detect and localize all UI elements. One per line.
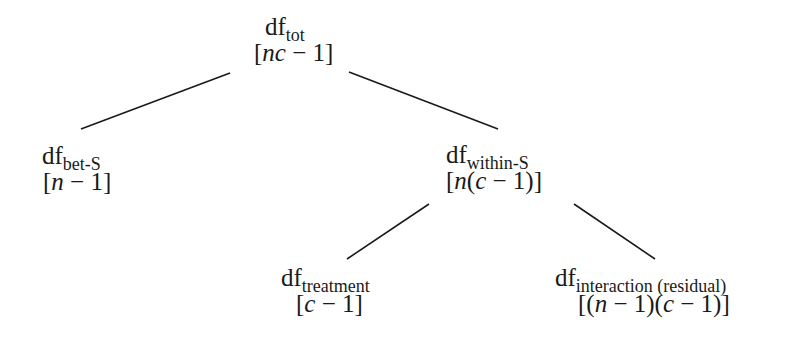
df-base: df <box>446 141 467 168</box>
node-between-label: dfbet-S <box>42 143 111 169</box>
formula-var: nc <box>262 39 286 66</box>
df-base: df <box>555 264 576 291</box>
edge-within-to-interaction <box>574 204 655 259</box>
node-total-label: dftot <box>265 14 333 40</box>
df-subscript: within-S <box>467 153 529 173</box>
edge-total-to-within <box>349 72 498 129</box>
node-interaction-residual-df: dfinteraction (residual) [(n − 1)(c − 1)… <box>555 265 730 317</box>
formula-var: n <box>51 168 64 195</box>
df-subscript: treatment <box>302 276 370 296</box>
node-between-subjects-df: dfbet-S [n − 1] <box>42 143 111 195</box>
df-base: df <box>42 142 63 169</box>
df-base: df <box>265 13 286 40</box>
node-within-subjects-df: dfwithin-S [n(c − 1)] <box>446 142 542 194</box>
node-total-df: dftot [nc − 1] <box>265 14 333 66</box>
df-subscript: bet-S <box>63 154 101 174</box>
edge-total-to-between <box>81 73 230 129</box>
edge-within-to-treatment <box>347 204 429 259</box>
node-treatment-label: dftreatment <box>281 265 370 291</box>
node-treatment-df: dftreatment [c − 1] <box>281 265 370 317</box>
df-subscript: tot <box>286 25 305 45</box>
df-subscript: interaction (residual) <box>576 276 726 296</box>
node-within-label: dfwithin-S <box>446 142 542 168</box>
df-base: df <box>281 264 302 291</box>
node-interaction-label: dfinteraction (residual) <box>555 265 730 291</box>
formula-var: n <box>454 167 467 194</box>
